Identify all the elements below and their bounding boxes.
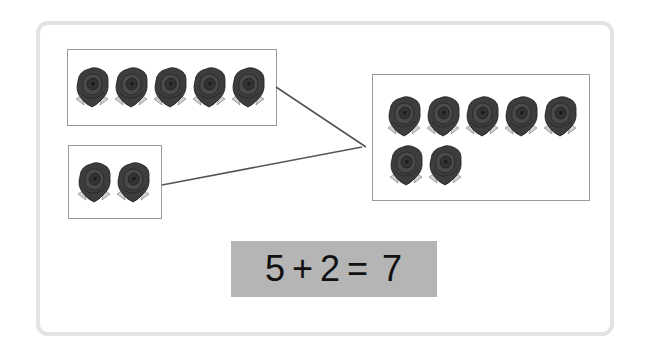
addend-1: 5 — [265, 248, 286, 290]
connector-lines — [0, 0, 646, 355]
addend-2: 2 — [320, 248, 341, 290]
equals-sign: = — [347, 248, 369, 290]
equation-banner: 5 + 2 = 7 — [231, 241, 437, 297]
connector-line-two — [162, 147, 362, 185]
sum: 7 — [382, 248, 403, 290]
plus-sign: + — [292, 248, 314, 290]
connector-line-five — [276, 87, 366, 147]
